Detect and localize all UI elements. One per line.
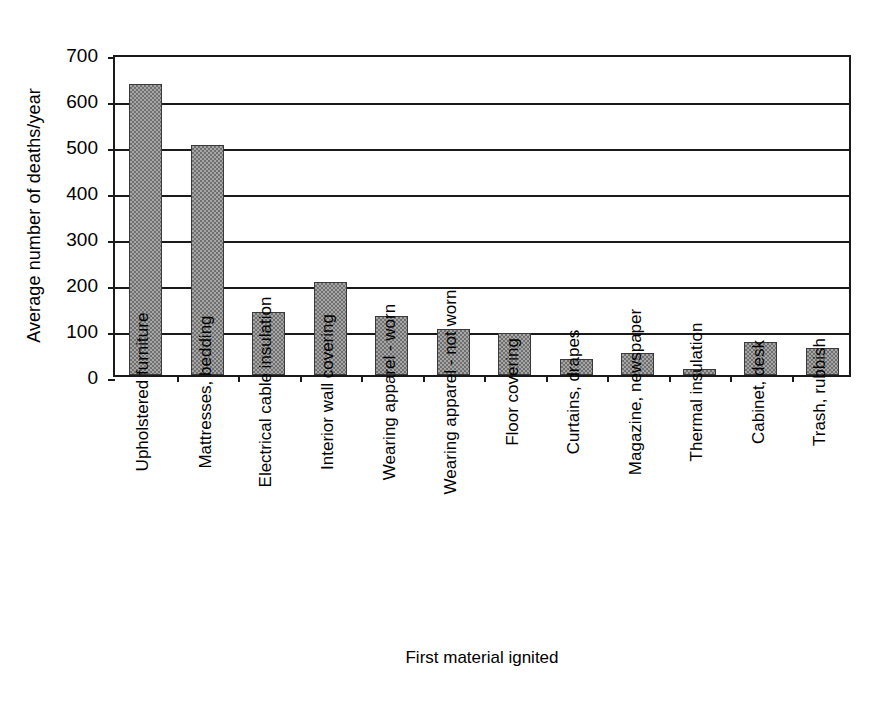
plot-area xyxy=(113,55,851,377)
x-tick-mark xyxy=(607,375,609,382)
x-tick-mark xyxy=(484,375,486,382)
x-tick-label-text: Trash, rubbish xyxy=(810,338,830,446)
y-axis-tick-labels: 0100200300400500600700 xyxy=(52,55,106,377)
y-axis-title: Average number of deaths/year xyxy=(14,40,54,390)
x-tick-mark xyxy=(423,375,425,382)
x-tick-mark xyxy=(300,375,302,382)
y-tick-label: 700 xyxy=(66,46,98,65)
bar-chart-figure: Average number of deaths/year 0100200300… xyxy=(0,0,888,706)
y-tick-mark xyxy=(108,57,115,59)
y-tick-mark xyxy=(108,195,115,197)
bars-layer xyxy=(115,57,849,375)
x-axis-title: First material ignited xyxy=(113,648,851,668)
x-tick-mark xyxy=(730,375,732,382)
y-tick-mark xyxy=(108,241,115,243)
x-tick-mark xyxy=(238,375,240,382)
x-tick-mark xyxy=(361,375,363,382)
y-tick-label: 200 xyxy=(66,276,98,295)
x-tick-mark xyxy=(792,375,794,382)
y-tick-mark xyxy=(108,379,115,381)
x-tick-mark xyxy=(546,375,548,382)
y-axis-title-text: Average number of deaths/year xyxy=(24,88,45,343)
x-axis-title-text: First material ignited xyxy=(405,648,558,667)
x-tick-mark xyxy=(177,375,179,382)
y-tick-label: 400 xyxy=(66,184,98,203)
y-tick-label: 600 xyxy=(66,92,98,111)
x-axis-category-labels: Upholstered furnitureMattresses, bedding… xyxy=(113,382,851,612)
x-tick-mark xyxy=(669,375,671,382)
y-tick-mark xyxy=(108,333,115,335)
x-tick-label: Trash, rubbish xyxy=(705,382,888,612)
y-tick-mark xyxy=(108,287,115,289)
y-tick-label: 500 xyxy=(66,138,98,157)
y-tick-label: 100 xyxy=(66,322,98,341)
y-tick-mark xyxy=(108,149,115,151)
y-tick-mark xyxy=(108,103,115,105)
y-tick-label: 300 xyxy=(66,230,98,249)
